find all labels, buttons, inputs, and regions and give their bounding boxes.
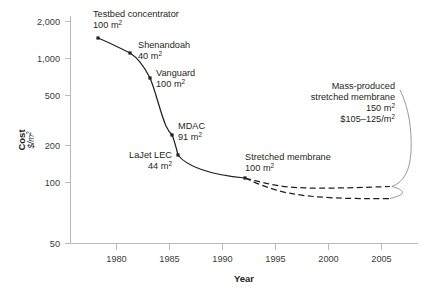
annotation-vanguard-area: 100 m xyxy=(156,79,182,89)
x-tick-label: 2005 xyxy=(371,254,391,264)
x-tick-label: 1995 xyxy=(265,254,285,264)
x-tick-label: 1990 xyxy=(212,254,232,264)
y-tick-label: 200 xyxy=(45,141,60,151)
data-point-stretched xyxy=(243,176,246,179)
svg-text:100 m2: 100 m2 xyxy=(156,78,186,89)
annotation-lajet-area-superscript: 2 xyxy=(168,160,172,167)
annotation-vanguard-area-superscript: 2 xyxy=(182,78,186,85)
annotation-mdac-name: MDAC xyxy=(178,121,205,131)
svg-text:100 m2: 100 m2 xyxy=(245,162,275,173)
x-tick-label: 1980 xyxy=(106,254,126,264)
annotation-mdac-area-superscript: 2 xyxy=(198,131,202,138)
y-axis-unit: $/m xyxy=(27,135,36,150)
x-tick-label: 2000 xyxy=(318,254,338,264)
annotation-stretched-area-superscript: 2 xyxy=(271,162,275,169)
svg-text:100 m2: 100 m2 xyxy=(93,19,123,30)
y-tick-label: 100 xyxy=(45,178,60,188)
annotation-mdac-area: 91 m xyxy=(178,132,199,142)
cost-vs-year-line-chart: 2,000 1,000 500 200 100 50 1980 1985 199… xyxy=(0,0,425,300)
y-tick-label: 500 xyxy=(45,91,60,101)
x-axis-title: Year xyxy=(234,273,254,284)
data-point-lajet xyxy=(176,153,179,156)
annotation-lajet-name: LaJet LEC xyxy=(129,150,172,160)
annotation-mass-line2: stretched membrane xyxy=(311,92,395,102)
annotation-stretched-name: Stretched membrane xyxy=(245,152,331,162)
annotation-testbed-area-superscript: 2 xyxy=(119,19,123,26)
annotation-shenandoah-area-superscript: 2 xyxy=(158,50,162,57)
annotation-shenandoah-area: 40 m xyxy=(138,51,159,61)
annotation-mass-area: 150 m xyxy=(366,103,392,113)
data-point-mdac xyxy=(170,133,173,136)
annotation-shenandoah-name: Shenandoah xyxy=(138,40,190,50)
data-point-shenandoah xyxy=(128,51,131,54)
y-tick-label: 1,000 xyxy=(37,54,60,64)
annotation-mass-line1: Mass-produced xyxy=(332,81,395,91)
data-point-testbed xyxy=(96,36,99,39)
annotation-mass-price: $105–125/m xyxy=(340,114,391,124)
annotation-stretched-area: 100 m xyxy=(245,163,271,173)
svg-text:$105–125/m2: $105–125/m2 xyxy=(340,113,395,124)
annotation-mass-area-superscript: 2 xyxy=(391,102,395,109)
data-point-vanguard xyxy=(148,76,151,79)
y-axis-unit-superscript: 2 xyxy=(25,131,32,136)
x-tick-label: 1985 xyxy=(159,254,179,264)
y-tick-label: 50 xyxy=(50,239,60,249)
annotation-vanguard-name: Vanguard xyxy=(156,68,195,78)
annotation-testbed-area: 100 m xyxy=(93,20,119,30)
svg-text:150 m2: 150 m2 xyxy=(366,102,396,113)
chart-figure: 2,000 1,000 500 200 100 50 1980 1985 199… xyxy=(0,0,425,300)
annotation-testbed-name: Testbed concentrator xyxy=(93,9,179,19)
annotation-mass-price-superscript: 2 xyxy=(391,113,395,120)
y-tick-label: 2,000 xyxy=(37,17,60,27)
annotation-lajet-area: 44 m xyxy=(148,161,169,171)
